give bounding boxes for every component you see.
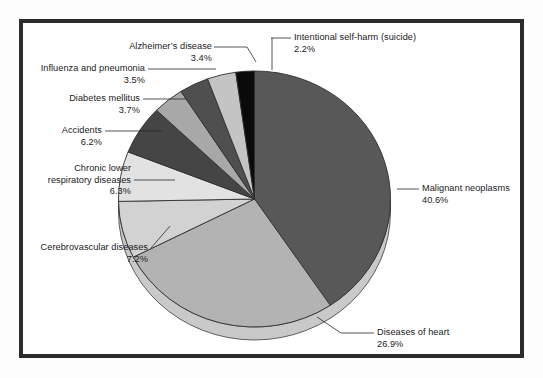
label-pct-alzheimers-disease: 3.4% bbox=[0, 53, 212, 65]
label-pct-diseases-of-heart: 26.9% bbox=[377, 339, 449, 351]
label-name-influenza-and-pneumonia: Influenza and pneumonia bbox=[0, 63, 145, 75]
label-diabetes-mellitus: Diabetes mellitus 3.7% bbox=[0, 93, 140, 116]
label-name-intentional-self-harm: Intentional self-harm (suicide) bbox=[294, 32, 416, 44]
label-name-chronic-lower-line1: Chronic lower bbox=[0, 163, 131, 175]
label-name-diseases-of-heart: Diseases of heart bbox=[377, 327, 449, 339]
label-malignant-neoplasms: Malignant neoplasms 40.6% bbox=[422, 183, 510, 206]
label-name-malignant-neoplasms: Malignant neoplasms bbox=[422, 183, 510, 195]
label-pct-chronic-lower-respiratory: 6.3% bbox=[0, 186, 131, 198]
label-accidents: Accidents 6.2% bbox=[0, 125, 102, 148]
label-name-alzheimers-disease: Alzheimer’s disease bbox=[0, 41, 212, 53]
leader-alzheimers-disease bbox=[214, 47, 256, 62]
label-alzheimers-disease: Alzheimer’s disease 3.4% bbox=[0, 41, 212, 64]
label-name-chronic-lower-line2: respiratory diseases bbox=[0, 175, 131, 187]
label-pct-diabetes-mellitus: 3.7% bbox=[0, 105, 140, 117]
label-diseases-of-heart: Diseases of heart 26.9% bbox=[377, 327, 449, 350]
label-influenza-and-pneumonia: Influenza and pneumonia 3.5% bbox=[0, 63, 145, 86]
pie-slices bbox=[118, 71, 390, 327]
label-name-cerebrovascular-diseases: Cerebrovascular diseases bbox=[0, 242, 148, 254]
label-name-diabetes-mellitus: Diabetes mellitus bbox=[0, 93, 140, 105]
pie-chart-figure: Malignant neoplasms 40.6% Diseases of he… bbox=[0, 0, 543, 378]
label-pct-intentional-self-harm: 2.2% bbox=[294, 44, 416, 56]
label-intentional-self-harm: Intentional self-harm (suicide) 2.2% bbox=[294, 32, 416, 55]
label-cerebrovascular-diseases: Cerebrovascular diseases 7.2% bbox=[0, 242, 148, 265]
label-chronic-lower-respiratory-diseases: Chronic lower respiratory diseases 6.3% bbox=[0, 163, 131, 198]
label-pct-influenza-and-pneumonia: 3.5% bbox=[0, 75, 145, 87]
label-name-accidents: Accidents bbox=[0, 125, 102, 137]
label-pct-accidents: 6.2% bbox=[0, 137, 102, 149]
label-pct-cerebrovascular-diseases: 7.2% bbox=[0, 254, 148, 266]
label-pct-malignant-neoplasms: 40.6% bbox=[422, 195, 510, 207]
